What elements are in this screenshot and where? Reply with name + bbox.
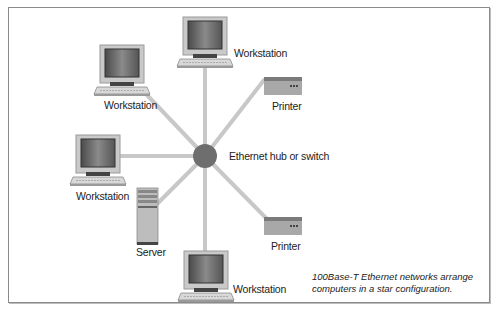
- printer-icon-bottom: [264, 217, 302, 235]
- hub-icon: [193, 144, 217, 168]
- workstation-icon-upper-left: [94, 45, 150, 96]
- printer-icon-top: [264, 77, 302, 95]
- server-icon: [137, 188, 158, 245]
- workstation-icon-bottom: [178, 251, 234, 302]
- caption-line-1: 100Base-T Ethernet networks arrange: [312, 271, 482, 283]
- workstation-icon-left: [70, 135, 126, 186]
- label-printer-bottom: Printer: [271, 240, 301, 252]
- caption-line-2: computers in a star configuration.: [312, 283, 482, 295]
- link-printer-bottom: [205, 156, 266, 218]
- label-ws-upper-left: Workstation: [104, 99, 157, 111]
- label-ws-top: Workstation: [234, 47, 287, 59]
- figure-caption: 100Base-T Ethernet networks arrange comp…: [312, 271, 482, 295]
- link-printer-top: [205, 80, 264, 156]
- label-ws-left: Workstation: [76, 190, 129, 202]
- label-hub: Ethernet hub or switch: [229, 150, 329, 162]
- label-ws-bottom: Workstation: [233, 283, 286, 295]
- workstation-icon-top: [177, 17, 233, 68]
- label-printer-top: Printer: [272, 100, 302, 112]
- label-server: Server: [136, 246, 166, 258]
